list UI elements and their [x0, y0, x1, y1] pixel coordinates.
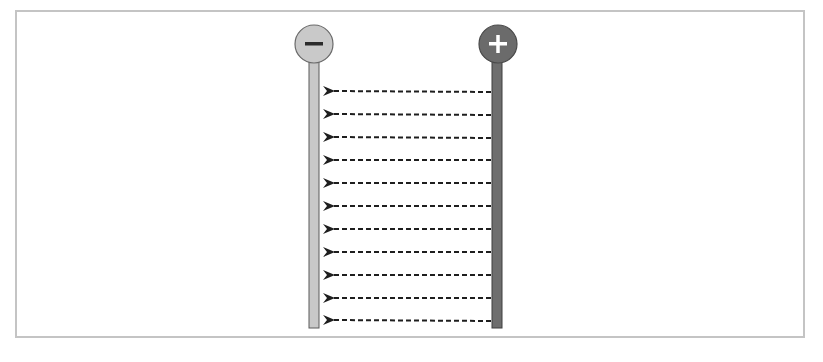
positive-electrode: [479, 25, 517, 328]
positive-rod: [492, 60, 502, 328]
field-line-arrow: [334, 137, 491, 138]
field-diagram: [0, 0, 823, 362]
plus-icon-vertical: [496, 35, 500, 53]
negative-electrode: [295, 25, 333, 328]
minus-icon: [305, 42, 323, 46]
field-line-arrow: [334, 320, 491, 321]
field-line-arrow: [334, 91, 491, 92]
negative-rod: [309, 60, 319, 328]
field-line-arrow: [334, 114, 491, 115]
field-lines: [334, 91, 491, 321]
